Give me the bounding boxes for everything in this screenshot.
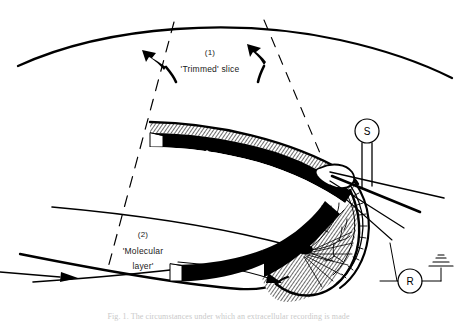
trim-arrow-left-tail	[166, 67, 176, 82]
left-band-arrow-head	[60, 272, 78, 282]
stimulator-label: S	[364, 126, 371, 137]
ground-icon	[429, 255, 453, 266]
recorder-label: R	[406, 276, 413, 287]
recorder-wire-from-pipette	[390, 243, 398, 281]
callout-1-number: (1)	[205, 48, 215, 58]
callout-2-text-line1: 'Molecular	[123, 246, 163, 257]
callout-2-text-line2: layer'	[132, 261, 153, 272]
band-notch-lower	[170, 264, 182, 281]
callout-1-text: 'Trimmed' slice	[181, 64, 240, 75]
figure-caption: Fig. 1. The circumstances under which an…	[0, 312, 457, 321]
left-band-arrow-line	[0, 272, 60, 277]
band-notch-upper	[150, 133, 163, 147]
trim-arrow-left	[142, 50, 166, 70]
callout-2-number: (2)	[138, 230, 148, 240]
trim-arrow-right	[247, 44, 266, 65]
trim-arrow-right-tail	[258, 66, 264, 82]
figure-root: S R (1) 'Trimmed' slice (2) 'Molecular l…	[0, 0, 457, 321]
cerebellar-slice-diagram: S R	[0, 0, 457, 321]
